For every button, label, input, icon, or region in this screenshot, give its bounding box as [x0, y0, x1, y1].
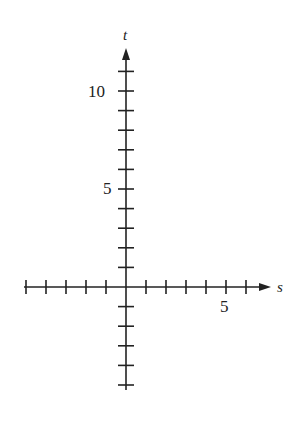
t-tick-label-10: 10 [88, 82, 105, 101]
t-axis-arrow-icon [122, 48, 130, 60]
s-axis-arrow-icon [259, 283, 271, 291]
s-axis-label: s [277, 279, 283, 295]
t-tick-label-5: 5 [103, 179, 112, 198]
s-tick-label-5: 5 [220, 297, 229, 316]
t-axis-label: t [123, 27, 128, 43]
coordinate-plane: s t 5 5 10 [0, 0, 304, 432]
